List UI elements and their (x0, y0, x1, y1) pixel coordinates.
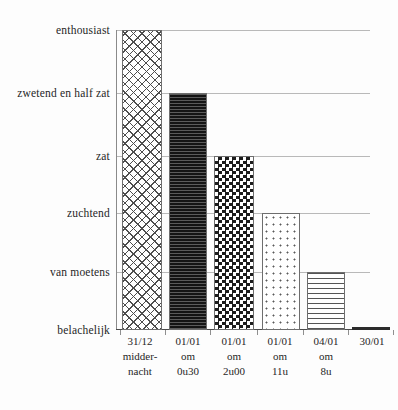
y-axis-line (116, 30, 117, 330)
x-axis-label-line-3: 8u (298, 364, 354, 379)
bar-31-12-middernacht (122, 30, 162, 330)
x-axis-label-line-1: 30/01 (344, 334, 398, 349)
y-axis-labels: enthousiast zwetend en half zat zat zuch… (6, 0, 110, 410)
y-axis-label-van-moetens: van moetens (50, 266, 110, 278)
x-axis-label-line-2: om (298, 349, 354, 364)
bar-04-01-8u (307, 272, 345, 330)
plot-area (116, 30, 370, 330)
bar-01-01-0u30 (169, 93, 207, 330)
y-axis-label-belachelijk: belachelijk (57, 324, 110, 336)
bar-30-01 (352, 327, 390, 330)
y-axis-label-enthousiast: enthousiast (56, 24, 110, 36)
y-axis-label-zwetend-en-half-zat: zwetend en half zat (17, 87, 110, 99)
x-axis-label-30-01: 30/01 (344, 334, 398, 349)
bar-01-01-2u00 (214, 156, 254, 330)
y-axis-label-zat: zat (96, 150, 110, 162)
x-axis-labels: 31/12 midder- nacht 01/01 om 0u30 01/01 … (116, 334, 376, 404)
y-axis-label-zuchtend: zuchtend (67, 207, 110, 219)
bar-01-01-11u (262, 213, 300, 330)
